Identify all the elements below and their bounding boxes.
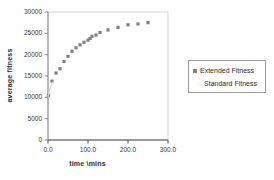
data-point [74, 46, 77, 49]
data-point [58, 67, 61, 70]
chart-figure: 30000 25000 20000 15000 10000 5000 0 0.0… [0, 0, 274, 180]
y-axis-title: average fitness [6, 36, 13, 116]
data-point [136, 22, 139, 25]
data-point [54, 71, 57, 74]
x-tick-label: 0.0 [33, 146, 63, 153]
data-point [106, 28, 109, 31]
data-point [94, 33, 97, 36]
legend-label: Standard Fitness [204, 80, 257, 87]
x-tick-label: 300.0 [153, 146, 183, 153]
data-point [70, 50, 73, 53]
legend-label: Extended Fitness [200, 67, 254, 74]
y-tick-label: 5000 [16, 115, 42, 122]
data-point [146, 21, 149, 24]
chart-legend: Extended Fitness Standard Fitness [188, 60, 266, 93]
y-tick-label: 10000 [16, 93, 42, 100]
x-axis-title: time \mins [0, 160, 175, 167]
legend-marker-icon [193, 69, 197, 73]
legend-marker-icon [197, 82, 201, 86]
data-point [98, 31, 101, 34]
x-ticks [48, 140, 168, 144]
data-point [78, 43, 81, 46]
x-tick-label: 100.0 [73, 146, 103, 153]
y-tick-label: 30000 [16, 8, 42, 15]
data-point [116, 26, 119, 29]
data-point [82, 41, 85, 44]
x-tick-label: 200.0 [113, 146, 143, 153]
data-point [90, 35, 93, 38]
data-point [66, 55, 69, 58]
y-tick-label: 20000 [16, 51, 42, 58]
y-tick-label: 15000 [16, 72, 42, 79]
legend-item-extended-fitness: Extended Fitness [193, 64, 261, 77]
y-ticks [45, 12, 49, 140]
legend-item-standard-fitness: Standard Fitness [193, 77, 261, 90]
data-point [62, 60, 65, 63]
y-tick-label: 0 [16, 136, 42, 143]
data-point [126, 23, 129, 26]
y-tick-label: 25000 [16, 29, 42, 36]
